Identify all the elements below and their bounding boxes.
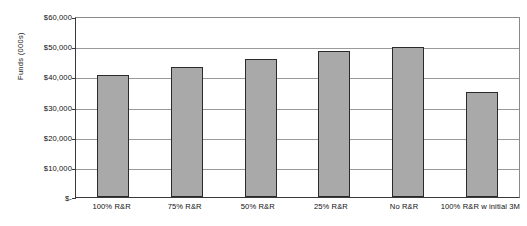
x-axis-category-label: 75% R&R xyxy=(148,202,221,224)
x-axis-category-label: 50% R&R xyxy=(221,202,294,224)
bar-chart: Funds (000s) $60,000$50,000$40,000$30,00… xyxy=(0,0,527,226)
bar-slot xyxy=(445,18,519,197)
plot-area xyxy=(75,17,520,198)
bar[interactable] xyxy=(392,47,424,197)
bar-slot xyxy=(297,18,371,197)
bar-slot xyxy=(150,18,224,197)
x-axis-category-label: 100% R&R xyxy=(75,202,148,224)
bar-slot xyxy=(371,18,445,197)
bar[interactable] xyxy=(318,51,350,197)
y-axis-tick-label: $60,000 xyxy=(24,13,72,22)
y-axis-tick-label: $- xyxy=(24,194,72,203)
y-axis-tick-label: $30,000 xyxy=(24,103,72,112)
bar[interactable] xyxy=(245,59,277,197)
x-axis-category-label: 25% R&R xyxy=(294,202,367,224)
y-axis-tick-label: $20,000 xyxy=(24,133,72,142)
bar[interactable] xyxy=(171,67,203,197)
bars-group xyxy=(76,18,519,197)
bar[interactable] xyxy=(466,92,498,197)
x-axis-category-labels: 100% R&R75% R&R50% R&R25% R&RNo R&R100% … xyxy=(75,202,520,224)
y-axis-tick-mark xyxy=(72,198,76,199)
y-axis-tick-label: $10,000 xyxy=(24,163,72,172)
bar-slot xyxy=(76,18,150,197)
y-axis-tick-label: $50,000 xyxy=(24,43,72,52)
x-axis-category-label: 100% R&R w initial 3M xyxy=(441,202,520,224)
y-axis-tick-label: $40,000 xyxy=(24,73,72,82)
bar[interactable] xyxy=(97,75,129,197)
y-axis-tick-labels: $60,000$50,000$40,000$30,000$20,000$10,0… xyxy=(24,0,72,226)
x-axis-category-label: No R&R xyxy=(368,202,441,224)
bar-slot xyxy=(224,18,298,197)
